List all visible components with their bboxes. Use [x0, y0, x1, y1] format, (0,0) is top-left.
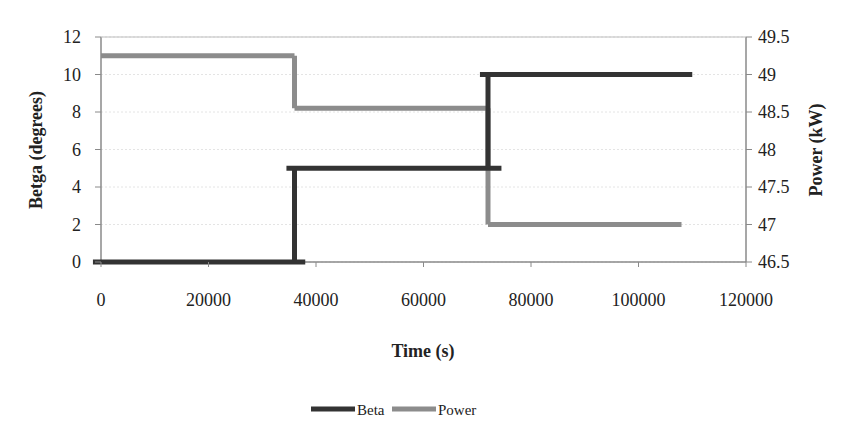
- left-tick-label: 6: [72, 140, 81, 160]
- x-tick-label: 120000: [719, 290, 773, 310]
- x-axis-title: Time (s): [391, 341, 454, 362]
- x-tick-label: 0: [97, 290, 106, 310]
- legend: Beta Power: [311, 402, 476, 418]
- x-axis-ticks: 020000400006000080000100000120000: [97, 262, 774, 310]
- series-beta: [93, 75, 692, 263]
- left-axis-title: Betga (degrees): [26, 91, 47, 209]
- left-tick-label: 10: [63, 65, 81, 85]
- left-tick-label: 0: [72, 252, 81, 272]
- right-axis-ticks: 46.54747.54848.54949.5: [746, 27, 790, 272]
- right-tick-label: 48.5: [758, 102, 790, 122]
- series-power: [101, 56, 682, 225]
- left-axis-ticks: 024681012: [63, 27, 101, 272]
- right-tick-label: 46.5: [758, 252, 790, 272]
- chart-canvas: 024681012 46.54747.54848.54949.5 0200004…: [0, 0, 861, 443]
- x-tick-label: 80000: [509, 290, 554, 310]
- right-tick-label: 47.5: [758, 177, 790, 197]
- right-tick-label: 49: [758, 65, 776, 85]
- x-tick-label: 60000: [401, 290, 446, 310]
- right-tick-label: 48: [758, 140, 776, 160]
- x-tick-label: 20000: [186, 290, 231, 310]
- series-layer: [93, 56, 692, 262]
- left-tick-label: 8: [72, 102, 81, 122]
- x-tick-label: 100000: [612, 290, 666, 310]
- gridlines: [101, 37, 746, 262]
- x-tick-label: 40000: [294, 290, 339, 310]
- left-tick-label: 12: [63, 27, 81, 47]
- right-tick-label: 47: [758, 215, 776, 235]
- legend-label-beta: Beta: [357, 402, 385, 418]
- left-tick-label: 4: [72, 177, 81, 197]
- right-tick-label: 49.5: [758, 27, 790, 47]
- right-axis-title: Power (kW): [806, 103, 827, 196]
- legend-label-power: Power: [438, 402, 476, 418]
- left-tick-label: 2: [72, 215, 81, 235]
